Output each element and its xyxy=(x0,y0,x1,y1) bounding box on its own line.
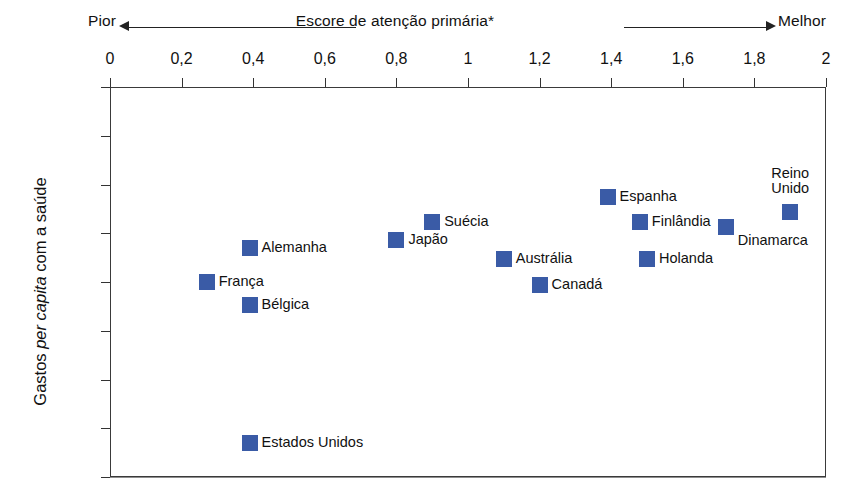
y-tick-mark xyxy=(101,87,110,88)
y-tick-mark xyxy=(101,282,110,283)
data-point-marker xyxy=(388,232,404,248)
x-tick-label: 1,6 xyxy=(672,50,694,68)
arrow-right-icon xyxy=(766,21,776,31)
y-axis-title: Gastos per capita com a saúde xyxy=(31,92,50,492)
data-point-label: Alemanha xyxy=(262,240,327,255)
arrow-left-icon xyxy=(119,21,129,31)
x-tick-label: 0 xyxy=(106,50,115,68)
data-point-marker xyxy=(632,214,648,230)
axis-direction-better-label: Melhor xyxy=(778,12,826,30)
data-point-label: Bélgica xyxy=(262,297,310,312)
data-point-label: ReinoUnido xyxy=(771,166,809,196)
x-tick-label: 1 xyxy=(464,50,473,68)
primary-care-score-scatter-chart: Pior Escore de atenção primária* Melhor … xyxy=(0,0,852,494)
data-point-marker xyxy=(532,277,548,293)
axis-direction-worse-label: Pior xyxy=(88,12,116,30)
x-tick-mark xyxy=(683,78,684,87)
y-tick-mark xyxy=(101,233,110,234)
data-point-label: França xyxy=(219,274,264,289)
x-tick-label: 2 xyxy=(822,50,831,68)
y-tick-mark xyxy=(101,185,110,186)
x-axis-title: Escore de atenção primária* xyxy=(296,12,494,30)
data-point-label: Austrália xyxy=(516,251,572,266)
x-tick-mark xyxy=(325,78,326,87)
y-tick-mark xyxy=(101,428,110,429)
data-point-label: Dinamarca xyxy=(738,233,808,248)
data-point-marker xyxy=(242,435,258,451)
x-tick-label: 1,4 xyxy=(600,50,622,68)
x-tick-mark xyxy=(182,78,183,87)
x-tick-label: 0,8 xyxy=(385,50,407,68)
data-point-label: Espanha xyxy=(620,189,677,204)
data-point-label: Suécia xyxy=(444,214,488,229)
data-point-label: Estados Unidos xyxy=(262,435,364,450)
y-tick-mark xyxy=(101,477,110,478)
x-tick-label: 0,4 xyxy=(242,50,264,68)
x-tick-label: 0,6 xyxy=(314,50,336,68)
x-tick-mark xyxy=(826,78,827,87)
x-tick-mark xyxy=(611,78,612,87)
y-tick-mark xyxy=(101,136,110,137)
data-point-marker xyxy=(242,240,258,256)
y-tick-mark xyxy=(101,380,110,381)
x-tick-mark xyxy=(540,78,541,87)
gridline xyxy=(110,477,826,478)
x-tick-label: 1,2 xyxy=(528,50,550,68)
x-tick-mark xyxy=(396,78,397,87)
x-tick-label: 1,8 xyxy=(743,50,765,68)
data-point-marker xyxy=(639,251,655,267)
x-tick-mark xyxy=(110,78,111,87)
x-tick-mark xyxy=(253,78,254,87)
y-tick-mark xyxy=(101,331,110,332)
data-point-label: Japão xyxy=(408,232,448,247)
data-point-marker xyxy=(718,219,734,235)
plot-area xyxy=(110,87,826,477)
data-point-marker xyxy=(199,274,215,290)
data-point-label: Canadá xyxy=(552,277,603,292)
data-point-marker xyxy=(424,214,440,230)
data-point-marker xyxy=(600,189,616,205)
data-point-marker xyxy=(782,204,798,220)
x-tick-label: 0,2 xyxy=(170,50,192,68)
data-point-marker xyxy=(496,251,512,267)
data-point-label: Holanda xyxy=(659,251,713,266)
x-tick-mark xyxy=(468,78,469,87)
axis-arrow-right-line xyxy=(624,27,772,28)
data-point-marker xyxy=(242,297,258,313)
data-point-label: Finlândia xyxy=(652,214,711,229)
x-tick-mark xyxy=(754,78,755,87)
